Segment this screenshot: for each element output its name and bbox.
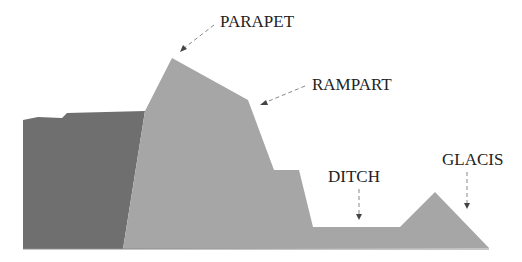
arrow-rampart-head xyxy=(260,100,268,105)
fortification-diagram: PARAPET RAMPART DITCH GLACIS xyxy=(0,0,522,262)
label-glacis: GLACIS xyxy=(442,150,503,169)
arrow-parapet-head xyxy=(180,45,187,52)
arrow-glacis-head xyxy=(464,203,470,209)
arrow-parapet xyxy=(183,25,214,49)
label-rampart: RAMPART xyxy=(312,75,392,94)
earthwork-profile xyxy=(123,58,489,249)
label-parapet: PARAPET xyxy=(220,12,295,31)
arrow-ditch-head xyxy=(356,214,362,220)
arrow-rampart xyxy=(264,86,305,103)
label-ditch: DITCH xyxy=(328,167,380,186)
